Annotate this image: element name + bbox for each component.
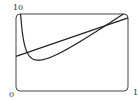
line-series [16,18,128,57]
y-max-label: 10 [13,4,23,12]
graph-window [0,0,138,100]
x-max-label: 10 [133,89,138,97]
origin-label: 0 [9,91,14,99]
plot-frame [16,14,128,91]
